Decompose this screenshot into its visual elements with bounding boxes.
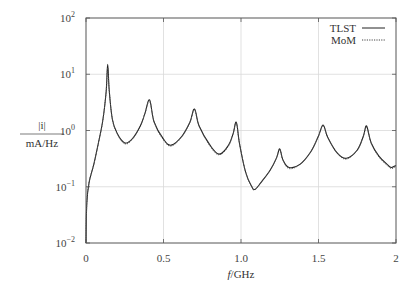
- legend: TLST MoM: [330, 22, 385, 46]
- x-axis-label: f/GHz: [228, 268, 255, 280]
- y-axis-label: |i| mA/Hz: [20, 119, 64, 149]
- legend-label-mom: MoM: [331, 34, 356, 46]
- x-tick-label: 2: [393, 252, 399, 264]
- x-tick-label: 0.5: [157, 252, 171, 264]
- x-tick-label: 1.5: [312, 252, 326, 264]
- chart-canvas: 00.51.01.52 10−210−1100101102 f/GHz |i| …: [0, 0, 415, 289]
- y-tick-label: 102: [60, 10, 75, 24]
- y-tick-label: 10−1: [55, 179, 75, 193]
- x-tick-labels: 00.51.01.52: [83, 252, 399, 264]
- y-tick-label: 10−2: [55, 235, 75, 249]
- y-tick-labels: 10−210−1100101102: [55, 10, 75, 249]
- x-tick-label: 1.0: [234, 252, 248, 264]
- y-tick-label: 101: [60, 66, 75, 80]
- x-axis-label-unit: /GHz: [231, 268, 255, 280]
- x-tick-label: 0: [83, 252, 89, 264]
- y-axis-label-denominator: mA/Hz: [26, 137, 59, 149]
- grid-lines: [86, 18, 396, 243]
- legend-label-tlst: TLST: [330, 22, 357, 34]
- y-tick-label: 100: [60, 123, 75, 137]
- y-axis-label-numerator: |i|: [38, 119, 45, 131]
